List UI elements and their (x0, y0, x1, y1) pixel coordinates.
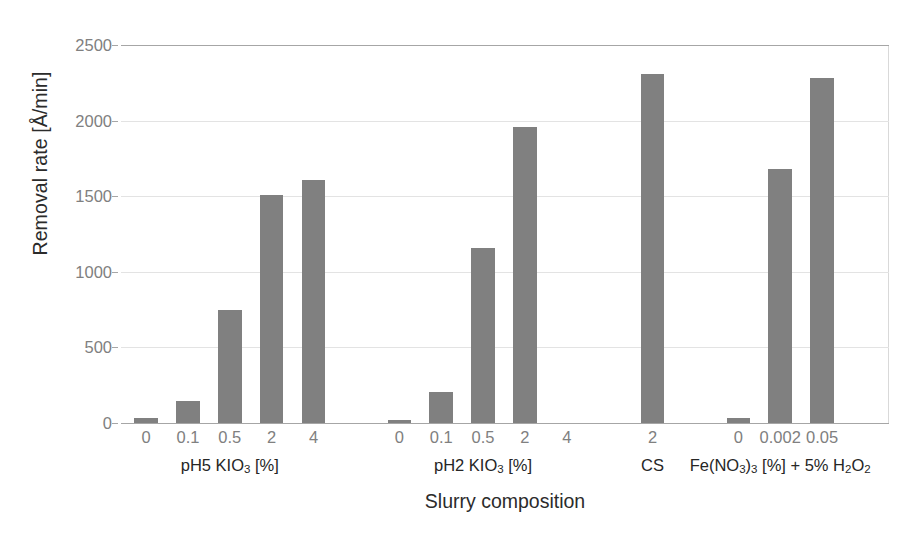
x-tick-label: 0 (734, 428, 743, 447)
x-tick-label: 0.1 (430, 428, 453, 447)
x-tick-label: 0.5 (472, 428, 495, 447)
bar (810, 78, 833, 423)
bar (471, 248, 494, 423)
bar (176, 401, 199, 423)
x-tick-label: 2 (267, 428, 276, 447)
gridline-2500 (121, 45, 889, 46)
group-label: pH2 KIO3 [%] (434, 456, 532, 475)
bar (641, 74, 664, 423)
group-label: Fe(NO3)3 [%] + 5% H2O2 (690, 456, 871, 475)
bar (388, 420, 411, 423)
y-tick-mark (112, 347, 118, 348)
bar (134, 418, 157, 423)
bar (260, 195, 283, 423)
y-tick-mark (112, 45, 118, 46)
bar (768, 169, 791, 423)
x-axis-title: Slurry composition (121, 490, 889, 513)
y-tick-label: 2000 (56, 111, 112, 130)
y-tick-mark (112, 423, 118, 424)
x-axis-group-labels: pH5 KIO3 [%]pH2 KIO3 [%]CSFe(NO3)3 [%] +… (121, 456, 889, 482)
plot-right-border (888, 45, 889, 423)
bar (727, 418, 750, 423)
bar (513, 127, 536, 423)
y-tick-label: 1000 (56, 262, 112, 281)
group-label: CS (641, 456, 664, 475)
bar (218, 310, 241, 423)
y-tick-label: 500 (56, 338, 112, 357)
x-tick-label: 2 (648, 428, 657, 447)
gridline-0 (121, 423, 889, 424)
x-tick-label: 4 (562, 428, 571, 447)
x-tick-label: 4 (309, 428, 318, 447)
y-tick-mark (112, 272, 118, 273)
y-tick-label: 2500 (56, 36, 112, 55)
x-tick-label: 0 (142, 428, 151, 447)
x-tick-label: 0.05 (806, 428, 838, 447)
x-axis-tick-labels: 00.10.52400.10.524200.0020.05 (121, 428, 889, 452)
x-tick-label: 0.1 (176, 428, 199, 447)
y-axis-title: Removal rate [Å/min] (29, 14, 52, 314)
x-tick-label: 2 (520, 428, 529, 447)
group-label: pH5 KIO3 [%] (181, 456, 279, 475)
y-axis-tick-labels: 05001000150020002500 (50, 45, 112, 423)
y-tick-label: 0 (56, 414, 112, 433)
bar (302, 180, 325, 423)
x-tick-label: 0.5 (218, 428, 241, 447)
gridline-2000 (121, 121, 889, 122)
x-tick-label: 0 (395, 428, 404, 447)
y-tick-mark (112, 121, 118, 122)
x-tick-label: 0.002 (760, 428, 801, 447)
bar-chart: Removal rate [Å/min] 0500100015002000250… (0, 0, 916, 533)
plot-area (121, 45, 889, 423)
y-tick-label: 1500 (56, 187, 112, 206)
bar (429, 392, 452, 423)
y-tick-mark (112, 196, 118, 197)
